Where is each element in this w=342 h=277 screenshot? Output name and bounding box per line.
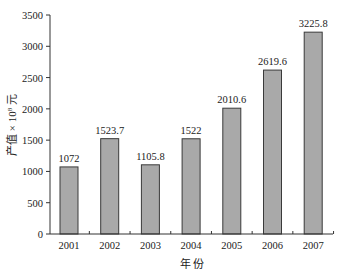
x-tick-label: 2001 <box>59 240 80 251</box>
bar-value-label: 2010.6 <box>217 94 246 105</box>
y-tick-label: 0 <box>38 229 43 240</box>
y-axis-title: 产值 × 108 元 <box>5 94 18 156</box>
bar-value-label: 1523.7 <box>95 125 124 136</box>
bar-chart: 0500100015002000250030003500 10721523.71… <box>0 0 342 277</box>
y-tick-label: 3500 <box>22 10 43 21</box>
bar-value-label: 1105.8 <box>136 151 165 162</box>
x-axis-title: 年 份 <box>180 257 205 270</box>
bar-value-label: 3225.8 <box>299 18 328 29</box>
bar-value-label: 2619.6 <box>258 56 287 67</box>
bar-2007 <box>304 32 322 234</box>
x-tick-label: 2003 <box>140 240 161 251</box>
x-tick-label: 2007 <box>303 240 324 251</box>
y-tick-label: 2500 <box>22 73 43 84</box>
y-tick-label: 3000 <box>22 41 43 52</box>
y-tick-label: 1500 <box>22 135 43 146</box>
bar-2006 <box>264 70 282 234</box>
y-tick-label: 1000 <box>22 166 43 177</box>
bar-2003 <box>141 165 159 234</box>
bar-2004 <box>182 139 200 234</box>
x-tick-label: 2002 <box>99 240 120 251</box>
bar-2005 <box>223 108 241 234</box>
y-tick-label: 2000 <box>22 104 43 115</box>
bar-value-label: 1072 <box>59 153 80 164</box>
y-axis-ticks: 0500100015002000250030003500 <box>22 10 50 240</box>
x-tick-label: 2006 <box>262 240 283 251</box>
bar-value-label: 1522 <box>181 125 202 136</box>
x-tick-label: 2005 <box>221 240 242 251</box>
bar-2002 <box>101 139 119 234</box>
x-tick-label: 2004 <box>181 240 203 251</box>
bar-2001 <box>60 167 78 234</box>
y-tick-label: 500 <box>27 198 43 209</box>
bars: 10721523.71105.815222010.62619.63225.8 <box>59 18 328 234</box>
